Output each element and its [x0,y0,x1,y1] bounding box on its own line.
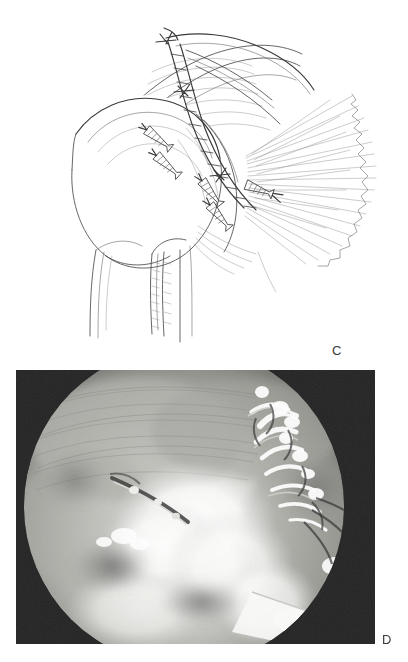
panel-label-c: C [332,343,342,358]
panel-d-arthroscopic-photograph [16,370,375,644]
panel-label-d: D [382,632,392,647]
panel-c-line-drawing: .ln { fill:none; stroke:#4a4a4a; stroke-… [0,0,408,362]
arthroscopic-photograph-svg [16,370,375,644]
tendon-fiber-fan [245,94,376,266]
shoulder-line-drawing-svg: .ln { fill:none; stroke:#4a4a4a; stroke-… [0,0,408,362]
film-grain [16,370,375,644]
bicipital-groove-hatching [152,262,171,328]
